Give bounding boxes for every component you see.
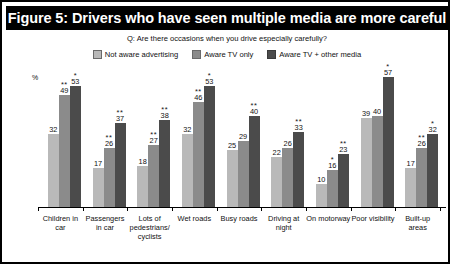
bar-column[interactable]: 26 [282, 70, 293, 207]
bar-value-label: 10 [317, 176, 325, 184]
legend-item-aware-tv-plus-other-media[interactable]: Aware TV + other media [267, 50, 361, 59]
bar-group: 1726**37** [93, 70, 126, 207]
bar-value-label: 26 [284, 140, 292, 148]
bar-column[interactable]: 40 [372, 70, 383, 207]
bar-group-bars: 1726**37** [93, 70, 126, 207]
bar[interactable] [338, 154, 349, 207]
bar-group-bars: 394057* [361, 70, 394, 207]
bar-column[interactable]: 32 [48, 70, 59, 207]
bar-column[interactable]: 46** [193, 70, 204, 207]
bar-column[interactable]: 27** [148, 70, 159, 207]
bar-column[interactable]: 37** [115, 70, 126, 207]
bar-group: 1827**38** [137, 70, 170, 207]
bar[interactable] [271, 157, 282, 207]
significance-marker: ** [295, 119, 302, 125]
significance-marker: ** [61, 82, 68, 88]
legend-label: Aware TV + other media [279, 50, 361, 59]
bar[interactable] [361, 118, 372, 207]
bar[interactable] [293, 132, 304, 207]
bar[interactable] [70, 86, 81, 207]
bar[interactable] [104, 148, 115, 207]
bar[interactable] [238, 141, 249, 207]
bar-column[interactable]: 32 [182, 70, 193, 207]
significance-marker: * [74, 73, 77, 79]
bar[interactable] [137, 166, 148, 207]
bar[interactable] [282, 148, 293, 207]
figure-container: Figure 5: Drivers who have seen multiple… [0, 0, 450, 264]
x-axis-category-label: Passengers in car [83, 214, 128, 232]
bar-group-bars: 1726**32* [405, 70, 438, 207]
bar-column[interactable]: 40** [249, 70, 260, 207]
bar-column[interactable]: 16* [327, 70, 338, 207]
bar-column[interactable]: 49** [59, 70, 70, 207]
bar-column[interactable]: 26** [416, 70, 427, 207]
legend-swatch-icon [93, 50, 102, 59]
x-axis-tick [172, 207, 173, 211]
bar-column[interactable]: 33** [293, 70, 304, 207]
bar-column[interactable]: 23** [338, 70, 349, 207]
bar[interactable] [372, 116, 383, 207]
bar[interactable] [405, 168, 416, 207]
bar-column[interactable]: 53* [204, 70, 215, 207]
bar-group: 252940** [227, 70, 260, 207]
bar-group: 3246**53* [182, 70, 215, 207]
x-axis-category-label: Children in car [38, 214, 83, 232]
x-axis-line [38, 207, 446, 208]
bar-column[interactable]: 32* [427, 70, 438, 207]
x-axis-category-label: Poor visibility [351, 214, 396, 223]
bar[interactable] [383, 77, 394, 207]
bar[interactable] [115, 123, 126, 207]
x-axis-tick [83, 207, 84, 211]
bar-value-label: 25 [228, 142, 236, 150]
bar-group-bars: 3249**53* [48, 70, 81, 207]
significance-marker: ** [195, 89, 202, 95]
significance-marker: * [331, 157, 334, 163]
x-axis-category-label: Driving at night [261, 214, 306, 232]
bar[interactable] [193, 102, 204, 207]
bar[interactable] [159, 120, 170, 207]
bar[interactable] [182, 134, 193, 207]
bar-value-label: 22 [273, 149, 281, 157]
bar-group-bars: 252940** [227, 70, 260, 207]
bar-column[interactable]: 25 [227, 70, 238, 207]
bar-column[interactable]: 29 [238, 70, 249, 207]
bar-column[interactable]: 39 [361, 70, 372, 207]
bar[interactable] [93, 168, 104, 207]
bar[interactable] [316, 184, 327, 207]
significance-marker: ** [251, 103, 258, 109]
legend-item-aware-tv-only[interactable]: Aware TV only [192, 50, 253, 59]
bar[interactable] [249, 116, 260, 207]
bar[interactable] [204, 86, 215, 207]
bar-column[interactable]: 57* [383, 70, 394, 207]
legend-label: Not aware advertising [105, 50, 178, 59]
bar-column[interactable]: 17 [93, 70, 104, 207]
bar-column[interactable]: 22 [271, 70, 282, 207]
legend-item-not-aware-advertising[interactable]: Not aware advertising [93, 50, 178, 59]
bar[interactable] [227, 150, 238, 207]
bar-column[interactable]: 17 [405, 70, 416, 207]
x-axis-tick [395, 207, 396, 211]
bar-column[interactable]: 26** [104, 70, 115, 207]
significance-marker: * [386, 64, 389, 70]
page-title: Figure 5: Drivers who have seen multiple… [8, 10, 447, 26]
bar-column[interactable]: 53* [70, 70, 81, 207]
bar[interactable] [48, 134, 59, 207]
bar-group-bars: 1827**38** [137, 70, 170, 207]
chart-legend: Not aware advertising Aware TV only Awar… [2, 50, 450, 59]
x-axis-category-label: Wet roads [172, 214, 217, 223]
x-axis-tick [38, 207, 39, 211]
x-axis-tick [351, 207, 352, 211]
bar[interactable] [427, 134, 438, 207]
bar[interactable] [327, 170, 338, 207]
bar-value-label: 17 [94, 160, 102, 168]
bar[interactable] [416, 148, 427, 207]
bar-column[interactable]: 38** [159, 70, 170, 207]
bar[interactable] [148, 145, 159, 207]
bar[interactable] [59, 95, 70, 207]
bar-column[interactable]: 10 [316, 70, 327, 207]
bar-column[interactable]: 18 [137, 70, 148, 207]
x-axis-category-label: Busy roads [217, 214, 262, 223]
bar-group: 3249**53* [48, 70, 81, 207]
bar-value-label: 18 [139, 158, 147, 166]
significance-marker: * [208, 73, 211, 79]
